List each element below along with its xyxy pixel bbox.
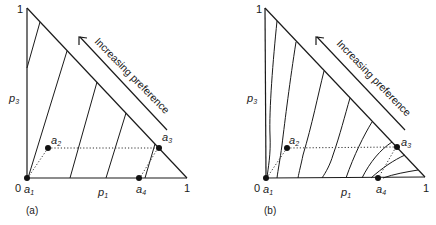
probability-triangle-figure: Increasing preference 1 0 1 p3 p1 a1 a2 … bbox=[0, 0, 436, 225]
point-label-a3: a3 bbox=[162, 131, 172, 144]
x-axis-edge bbox=[266, 177, 425, 178]
origin-label-b: 0 bbox=[254, 182, 260, 194]
point-label-a3: a3 bbox=[401, 136, 411, 149]
point-label-a4: a4 bbox=[376, 183, 386, 196]
panel-caption-b: (b) bbox=[264, 205, 276, 216]
x-axis-label-a: p1 bbox=[97, 186, 108, 199]
point-a3 bbox=[156, 145, 162, 151]
x-axis-label-b: p1 bbox=[340, 186, 351, 199]
preference-arrow-b: Increasing preference bbox=[316, 37, 414, 130]
point-label-a2: a2 bbox=[51, 134, 61, 147]
arrow-shaft-icon bbox=[80, 37, 167, 130]
point-label-a4: a4 bbox=[136, 183, 146, 196]
vertex-right-label-b: 1 bbox=[423, 182, 429, 194]
arrow-text-a: Increasing preference bbox=[93, 35, 173, 116]
vertex-right-label-a: 1 bbox=[184, 182, 190, 194]
indifference-lines-a bbox=[27, 22, 155, 178]
y-axis-label-b: p3 bbox=[246, 92, 257, 105]
point-a4 bbox=[136, 175, 142, 181]
panel-b: Increasing preference 1 0 1 p3 p1 a1 a2 … bbox=[246, 3, 429, 216]
point-a1 bbox=[24, 175, 30, 181]
dotted-connectors-b bbox=[268, 147, 396, 176]
point-a4 bbox=[375, 175, 381, 181]
point-a3 bbox=[394, 144, 400, 150]
arrow-shaft-icon bbox=[317, 37, 405, 130]
triangle-a bbox=[27, 8, 187, 178]
panel-caption-a: (a) bbox=[26, 205, 38, 216]
preference-arrow-a: Increasing preference bbox=[79, 35, 172, 130]
vertex-top-label-b: 1 bbox=[256, 3, 262, 15]
y-axis-label-a: p3 bbox=[8, 92, 19, 105]
vertex-top-label-a: 1 bbox=[17, 3, 23, 15]
point-label-a1: a1 bbox=[263, 183, 273, 196]
arrow-text-b: Increasing preference bbox=[335, 37, 414, 119]
point-label-a1: a1 bbox=[24, 183, 34, 196]
panel-a: Increasing preference 1 0 1 p3 p1 a1 a2 … bbox=[8, 3, 190, 216]
point-a1 bbox=[263, 175, 269, 181]
dotted-connectors-a bbox=[29, 148, 158, 176]
point-label-a2: a2 bbox=[289, 134, 299, 147]
hypotenuse-edge bbox=[27, 8, 187, 178]
y-axis-edge bbox=[265, 8, 266, 178]
origin-label-a: 0 bbox=[15, 182, 21, 194]
